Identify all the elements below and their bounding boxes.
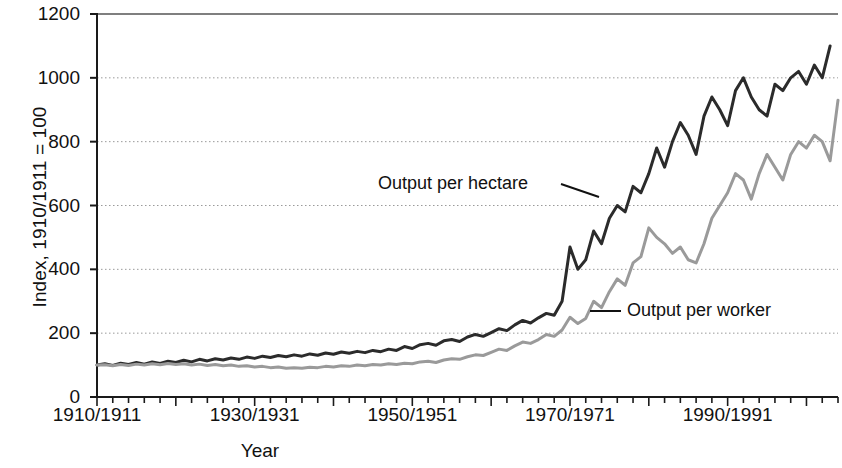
annotation-output-per-hectare: Output per hectare: [378, 173, 528, 194]
plot-area: [0, 0, 842, 468]
chart-root: Index, 1910/1911 = 100 Year 020040060080…: [0, 0, 842, 468]
annotation-output-per-worker: Output per worker: [627, 300, 771, 321]
